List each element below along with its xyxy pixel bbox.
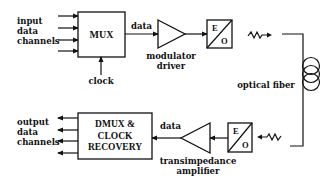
mux-label: MUX — [90, 29, 115, 40]
svg-text:modulator: modulator — [146, 51, 196, 61]
tx-eo-converter: E O — [207, 20, 232, 48]
svg-text:O: O — [221, 36, 228, 46]
svg-text:O: O — [242, 140, 249, 150]
clock-label: clock — [88, 76, 114, 86]
rx-data-label: data — [160, 121, 181, 131]
svg-text:CLOCK: CLOCK — [98, 131, 133, 141]
input-data-channels-label: input data channels — [17, 16, 60, 46]
svg-text:transimpedance: transimpedance — [160, 156, 237, 166]
optical-link-diagram: input data channels MUX clock data modul… — [0, 0, 330, 181]
mux-block: MUX — [78, 12, 125, 57]
svg-text:amplifier: amplifier — [177, 166, 220, 176]
svg-text:channels: channels — [17, 36, 60, 46]
optical-fiber-label: optical fiber — [237, 80, 295, 90]
svg-text:RECOVERY: RECOVERY — [88, 142, 142, 152]
fiber-coil-icon — [303, 58, 320, 91]
svg-text:E: E — [233, 126, 239, 136]
output-data-channels-label: output data channels — [17, 117, 60, 147]
svg-text:data: data — [17, 26, 38, 36]
svg-text:E: E — [212, 23, 218, 33]
svg-text:input: input — [17, 16, 43, 26]
rx-optical-wave-icon — [257, 134, 281, 140]
svg-text:channels: channels — [17, 137, 60, 147]
svg-text:driver: driver — [157, 61, 186, 71]
modulator-driver-amplifier: modulator driver — [146, 20, 196, 71]
svg-text:output: output — [17, 117, 49, 127]
rx-eo-converter: E O — [228, 123, 252, 152]
tx-optical-wave-icon — [248, 32, 272, 38]
amplifier-triangle-icon — [158, 20, 185, 48]
svg-text:data: data — [17, 127, 38, 137]
clock-input: clock — [88, 57, 114, 86]
dmux-clock-recovery-block: DMUX & CLOCK RECOVERY — [78, 113, 152, 159]
amplifier-triangle-icon — [181, 123, 210, 153]
tx-data-label: data — [131, 21, 152, 31]
input-channel-arrows — [58, 16, 78, 51]
svg-text:DMUX &: DMUX & — [95, 119, 135, 129]
output-channel-arrows — [58, 118, 78, 153]
